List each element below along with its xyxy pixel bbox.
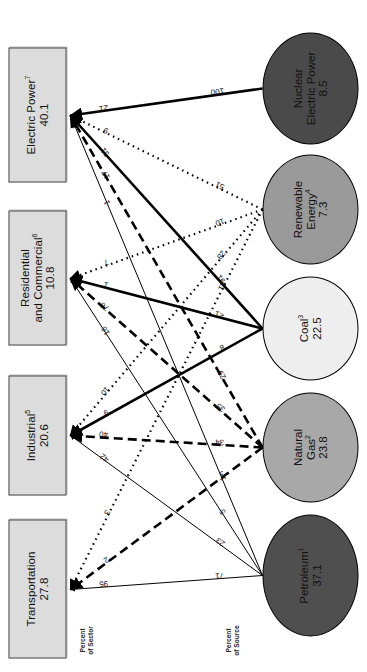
source-name-renewable-l1: Renewable [291, 180, 303, 238]
axis-caption-percent-of-source: Percent of Source [224, 612, 240, 668]
source-footnote-petroleum: 1 [296, 547, 303, 551]
source-footnote-coal: 3 [296, 314, 303, 318]
sector-value-residential-and-commercial: 10.8 [43, 233, 56, 322]
flow-line-natural-gas-to-electric-power [70, 115, 262, 447]
source-footnote-renewable: 4 [303, 189, 310, 193]
source-value-petroleum: 37.1 [310, 564, 322, 586]
source-value-nuclear-electric-power: 8.5 [316, 80, 328, 96]
sector-name-electric-power: Electric Power [24, 79, 36, 154]
flow-label-source-nuclear-electric-power: 100 [209, 86, 223, 97]
source-value-natural-gas: 23.8 [316, 436, 328, 458]
sector-name-industrial: Industrial [24, 413, 36, 461]
sector-box-residential-and-commercial[interactable]: Residential and Commercial6 10.8 [8, 210, 66, 345]
source-ellipse-natural-gas[interactable]: Natural Gas2 23.8 [262, 392, 358, 502]
source-name-natural-gas-l2: Gas [304, 438, 316, 459]
axis-caption-source-line2: of Source [232, 625, 239, 655]
flow-line-coal-to-electric-power [70, 115, 262, 328]
sector-box-industrial[interactable]: Industrial5 20.6 [8, 375, 66, 495]
source-footnote-natural-gas: 2 [303, 435, 310, 439]
sector-footnote-industrial: 5 [23, 409, 30, 413]
flow-label-sector-natural-gas-industrial: 40 [99, 429, 108, 439]
flow-label-source-coal-residential: <1 [213, 308, 224, 319]
source-name-renewable-l2: Energy [304, 193, 316, 229]
source-name-petroleum: Petroleum [297, 551, 309, 603]
figure-stage: Transportation 27.8 Industrial5 20.6 Res… [0, 0, 367, 672]
flow-line-natural-gas-to-transportation [70, 447, 262, 589]
source-name-coal: Coal [297, 318, 309, 342]
source-value-renewable-energy: 7.3 [316, 201, 328, 217]
source-ellipse-nuclear-electric-power[interactable]: Nuclear Electric Power 8.5 [262, 32, 358, 144]
source-ellipse-coal[interactable]: Coal3 22.5 [262, 276, 358, 380]
energy-flow-diagram: Transportation 27.8 Industrial5 20.6 Res… [0, 0, 367, 672]
sector-name-residential-l2: and Commercial [31, 237, 43, 322]
sector-name-residential-l1: Residential [18, 249, 30, 307]
source-ellipse-renewable-energy[interactable]: Renewable Energy4 7.3 [262, 154, 358, 264]
source-name-nuclear-l2: Electric Power [304, 51, 316, 125]
sector-label-industrial: Industrial5 20.6 [24, 409, 50, 461]
source-label-natural-gas: Natural Gas2 23.8 [291, 428, 330, 465]
flow-label-sector-petroleum-transportation: 95 [99, 579, 109, 589]
axis-caption-source-line1: Percent [224, 628, 231, 652]
source-label-renewable-energy: Renewable Energy4 7.3 [291, 180, 330, 238]
source-value-coal: 22.5 [310, 317, 322, 339]
sector-value-industrial: 20.6 [37, 409, 50, 461]
source-label-nuclear-electric-power: Nuclear Electric Power 8.5 [291, 51, 330, 125]
sector-name-transportation: Transportation [24, 551, 36, 626]
sector-label-electric-power: Electric Power7 40.1 [24, 75, 50, 154]
source-ellipse-petroleum[interactable]: Petroleum1 37.1 [262, 514, 358, 636]
flow-label-source-natural-gas-industrial: 34 [214, 437, 223, 447]
sector-label-transportation: Transportation 27.8 [24, 551, 50, 626]
axis-caption-sector-line1: Percent [78, 628, 85, 652]
source-label-coal: Coal3 22.5 [297, 314, 323, 342]
sector-value-electric-power: 40.1 [37, 75, 50, 154]
source-name-nuclear-l1: Nuclear [291, 68, 303, 108]
axis-caption-sector-line2: of Sector [86, 626, 93, 655]
sector-footnote-residential: 6 [30, 233, 37, 237]
axis-caption-percent-of-sector: Percent of Sector [78, 612, 94, 668]
sector-box-electric-power[interactable]: Electric Power7 40.1 [8, 47, 66, 182]
source-name-natural-gas-l1: Natural [291, 428, 303, 465]
sector-value-transportation: 27.8 [37, 551, 50, 626]
source-label-petroleum: Petroleum1 37.1 [297, 547, 323, 603]
sector-footnote-electric-power: 7 [23, 75, 30, 79]
flow-label-source-petroleum-transportation: 71 [214, 570, 224, 580]
flow-lines [70, 88, 262, 589]
sector-box-transportation[interactable]: Transportation 27.8 [8, 519, 66, 658]
flow-label-sector-nuclear-electric-power: 21 [98, 102, 108, 112]
sector-label-residential-and-commercial: Residential and Commercial6 10.8 [18, 233, 57, 322]
